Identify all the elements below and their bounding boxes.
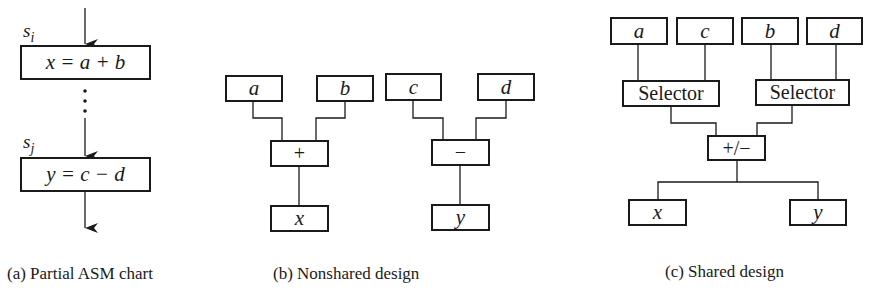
asm-state-box-sj: y = c − d (20, 157, 151, 192)
shared-input-b-box: b (741, 17, 799, 45)
output-y-box: y (431, 204, 490, 231)
shared-input-a-box: a (610, 17, 668, 45)
caption-c: (c) Shared design (665, 262, 784, 282)
shared-input-c-box: c (676, 17, 734, 45)
caption-a: (a) Partial ASM chart (7, 264, 153, 284)
input-d-box: d (477, 73, 535, 101)
shared-output-x-box: x (628, 199, 687, 226)
caption-b: (b) Nonshared design (273, 264, 419, 284)
state-label-si: si (23, 20, 34, 46)
input-b-box: b (316, 75, 374, 102)
asm-state-box-si: x = a + b (20, 45, 151, 80)
input-a-box: a (225, 75, 283, 102)
shared-output-y-box: y (789, 199, 847, 226)
output-x-box: x (270, 205, 329, 232)
adder-box: + (270, 140, 329, 167)
subtractor-box: − (431, 139, 490, 166)
input-c-box: c (385, 73, 442, 101)
state-label-sj: sj (23, 131, 34, 157)
selector-right-box: Selector (755, 79, 850, 106)
selector-left-box: Selector (622, 80, 720, 107)
add-sub-box: +/− (707, 135, 766, 161)
shared-input-d-box: d (806, 17, 863, 45)
